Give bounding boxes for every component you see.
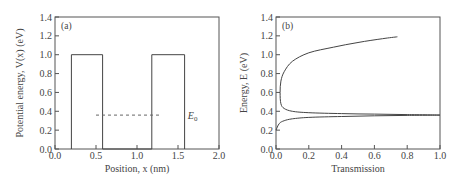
x-tick-label: 0.8 <box>401 150 414 161</box>
x-tick-label: 1.5 <box>172 150 185 161</box>
y-axis-ticks: 0.00.20.40.60.81.01.21.4 <box>261 12 281 155</box>
y-tick-label: 1.2 <box>261 30 274 41</box>
panel-label: (b) <box>282 21 293 32</box>
x-tick-label: 0.6 <box>368 150 381 161</box>
plot-frame <box>276 17 440 149</box>
figure: 0.00.20.40.60.81.01.21.4 0.00.51.01.52.0… <box>0 0 460 185</box>
x-tick-label: 0.2 <box>303 150 316 161</box>
y-axis-ticks: 0.00.20.40.60.81.01.21.4 <box>40 12 60 155</box>
x-tick-label: 0.4 <box>335 150 348 161</box>
panel-b-chart: 0.00.20.40.60.81.01.21.4 0.00.20.40.60.8… <box>238 12 446 175</box>
y-tick-label: 0.6 <box>261 87 274 98</box>
y-tick-label: 0.8 <box>261 68 274 79</box>
y-axis-label: Energy, E (eV) <box>238 53 250 113</box>
x-tick-label: 0.0 <box>49 150 62 161</box>
y-tick-label: 0.2 <box>40 125 53 136</box>
y-tick-label: 1.0 <box>40 49 53 60</box>
plot-frame <box>55 17 219 149</box>
x-tick-label: 0.0 <box>270 150 283 161</box>
y-tick-label: 0.4 <box>40 106 53 117</box>
x-axis-label: Position, x (nm) <box>105 163 170 175</box>
y-tick-label: 0.2 <box>261 125 274 136</box>
y-tick-label: 1.4 <box>40 12 53 23</box>
y-axis-label: Potential energy, V(x) (eV) <box>14 29 26 138</box>
x-axis-ticks: 0.00.20.40.60.81.0 <box>270 145 447 161</box>
x-tick-label: 0.5 <box>90 150 103 161</box>
y-tick-label: 1.2 <box>40 30 53 41</box>
potential-barrier-line <box>71 55 184 149</box>
x-axis-label: Transmission <box>331 163 385 174</box>
x-tick-label: 1.0 <box>131 150 144 161</box>
x-axis-ticks: 0.00.51.01.52.0 <box>49 145 226 161</box>
y-tick-label: 0.6 <box>40 87 53 98</box>
x-tick-label: 2.0 <box>213 150 226 161</box>
panel-label: (a) <box>61 21 72 32</box>
x-tick-label: 1.0 <box>434 150 447 161</box>
e0-annotation: E0 <box>187 110 198 123</box>
panel-a-chart: 0.00.20.40.60.81.01.21.4 0.00.51.01.52.0… <box>14 12 225 176</box>
transmission-curve <box>276 37 440 130</box>
y-tick-label: 1.4 <box>261 12 274 23</box>
y-tick-label: 0.4 <box>261 106 274 117</box>
y-tick-label: 1.0 <box>261 49 274 60</box>
y-tick-label: 0.8 <box>40 68 53 79</box>
